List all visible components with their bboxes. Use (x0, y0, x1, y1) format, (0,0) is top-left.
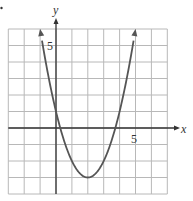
y-tick-label-5: 5 (47, 40, 53, 52)
problem-marker-dot (0, 7, 2, 9)
y-axis-arrow-icon (54, 18, 59, 24)
x-tick-label-5: 5 (131, 133, 137, 145)
curve-right-arrow-icon (131, 29, 137, 36)
grid (8, 29, 167, 194)
x-axis-label: x (181, 123, 186, 135)
y-axis-label: y (53, 4, 58, 16)
parabola-graph (0, 0, 193, 201)
axes (8, 18, 180, 194)
x-axis-arrow-icon (174, 126, 180, 131)
curve-left-arrow-icon (38, 29, 44, 36)
